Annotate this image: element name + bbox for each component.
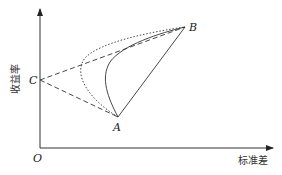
curve-a-b-solid — [105, 27, 185, 117]
line-a-b-solid — [118, 27, 185, 117]
y-axis-label: 收益率 — [9, 64, 21, 94]
risk-return-diagram: C B A O 标准差 收益率 — [0, 0, 282, 175]
point-label-b: B — [188, 21, 197, 34]
origin-label: O — [33, 152, 42, 165]
line-c-b-dashed — [40, 27, 185, 80]
point-label-c: C — [29, 74, 38, 87]
curve-a-b-dotted — [81, 27, 185, 117]
x-axis-label: 标准差 — [238, 154, 268, 166]
point-label-a: A — [112, 121, 121, 134]
